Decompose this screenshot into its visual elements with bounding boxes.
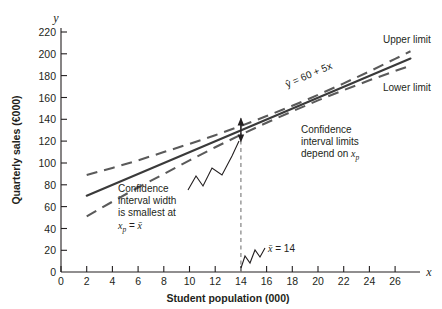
ci-width-line-1: Confidence [118,183,169,194]
x-tick-label-8: 8 [161,275,167,287]
x-tick-label-22: 22 [338,275,350,287]
x-tick-label-2: 2 [84,275,90,287]
x-tick-label-10: 10 [184,275,196,287]
ci-width-eq: = [126,220,137,231]
ci-limits-line-3-sub: p [355,153,360,162]
ci-limits-line-3: depend on xp [301,148,360,162]
x-tick-label-12: 12 [209,275,221,287]
ci-limits-line-2: interval limits [301,136,359,147]
ci-width-mean: x̄ [137,220,143,231]
mean-x-equals: = [272,243,283,254]
y-tick-label-40: 40 [44,223,56,235]
chart-canvas: 220 200 180 160 140 120 100 80 60 40 20 … [0,0,442,309]
ci-width-leader-line [188,141,239,190]
y-tick-label-140: 140 [38,113,56,125]
y-axis-title: Quarterly sales (€000) [10,95,22,204]
y-axis-tick-labels: 220 200 180 160 140 120 100 80 60 40 20 … [38,26,56,278]
arrow-head-up-icon [238,118,245,126]
x-tick-label-24: 24 [364,275,376,287]
y-tick-label-120: 120 [38,135,56,147]
ci-limits-annotation: Confidence interval limits depend on xp [301,124,360,162]
y-tick-label-60: 60 [44,201,56,213]
regression-confidence-interval-figure: 220 200 180 160 140 120 100 80 60 40 20 … [0,0,442,309]
x-tick-label-4: 4 [109,275,115,287]
mean-x-leader-line [241,248,265,268]
lower-limit-label: Lower limit [383,82,431,93]
ci-width-line-2: interval width [118,195,176,206]
x-axis-tick-labels: 0 2 4 6 8 10 12 14 16 18 20 22 24 26 [58,275,401,287]
x-tick-label-18: 18 [286,275,298,287]
y-tick-label-80: 80 [44,179,56,191]
y-tick-label-220: 220 [38,26,56,38]
ci-limits-line-3-pre: depend on [301,148,351,159]
ci-width-annotation: Confidence interval width is smallest at… [117,183,176,234]
x-tick-label-26: 26 [389,275,401,287]
y-tick-label-160: 160 [38,92,56,104]
x-tick-label-20: 20 [312,275,324,287]
x-axis-title: Student population (000) [166,292,289,304]
y-tick-label-180: 180 [38,70,56,82]
estimated-regression-line [87,59,411,196]
x-axis-symbol: x [425,265,432,279]
x-tick-label-16: 16 [261,275,273,287]
ci-limits-line-1: Confidence [301,124,352,135]
x-tick-label-6: 6 [135,275,141,287]
y-axis-symbol: y [52,11,59,25]
y-tick-label-200: 200 [38,48,56,60]
y-tick-label-100: 100 [38,157,56,169]
x-tick-label-0: 0 [58,275,64,287]
mean-x-value: 14 [284,243,296,254]
upper-limit-label: Upper limit [383,34,431,45]
x-tick-label-14: 14 [235,275,247,287]
ci-width-line-4: xp = x̄ [117,220,143,234]
mean-x-label: x̄ = 14 [267,243,295,254]
y-tick-label-20: 20 [44,244,56,256]
y-axis-ticks [61,32,67,250]
regression-equation-label: ŷ = 60 + 5x [284,60,334,89]
y-tick-label-0: 0 [50,266,56,278]
x-axis-ticks [61,266,395,272]
upper-confidence-limit-line [87,51,411,175]
ci-width-line-3: is smallest at [118,207,176,218]
